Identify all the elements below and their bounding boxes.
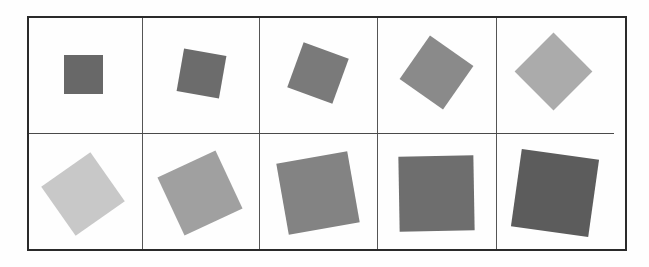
rotated-square-1 xyxy=(64,55,103,94)
rotated-square-2 xyxy=(176,48,226,98)
figure-canvas xyxy=(0,0,649,267)
grid-divider-horizontal xyxy=(29,133,614,134)
rotated-square-8 xyxy=(276,151,359,234)
rotated-square-9 xyxy=(398,155,474,231)
rotated-square-10 xyxy=(511,149,599,237)
